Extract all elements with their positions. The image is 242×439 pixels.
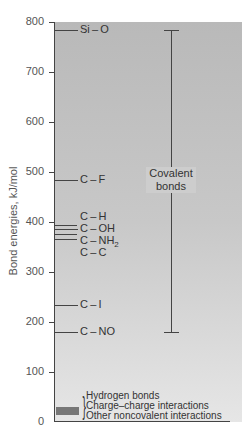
bond-label-si-o: Si – O xyxy=(80,23,109,35)
bond-line-c-i xyxy=(55,305,78,306)
bond-label-c-h: C – H xyxy=(80,210,106,222)
tick-800 xyxy=(49,22,54,23)
tick-label-800: 800 xyxy=(0,15,44,27)
covalent-bonds-label: Covalent bonds xyxy=(146,167,196,193)
tick-label-600: 600 xyxy=(0,115,44,127)
bond-label-c-i: C – I xyxy=(80,298,102,310)
bond-line-c-no xyxy=(55,332,78,333)
bond-line-c-nh2 xyxy=(55,234,77,235)
noncovalent-bar xyxy=(56,407,79,415)
bond-line-si-o xyxy=(55,30,78,31)
bond-line-c-f xyxy=(55,180,78,181)
tick-500 xyxy=(49,172,54,173)
covalent-range-cap-top xyxy=(164,30,179,31)
bond-line-c-h xyxy=(55,225,77,226)
y-axis xyxy=(54,22,55,422)
tick-label-400: 400 xyxy=(0,215,44,227)
tick-label-100: 100 xyxy=(0,365,44,377)
tick-700 xyxy=(49,72,54,73)
bond-line-c-oh xyxy=(55,229,78,230)
tick-label-200: 200 xyxy=(0,315,44,327)
bond-label-c-no: C – NO xyxy=(80,325,115,337)
tick-300 xyxy=(49,272,54,273)
other-noncovalent-label: Other noncovalent interactions xyxy=(86,411,222,421)
bond-label-c-f: C – F xyxy=(80,173,105,185)
tick-200 xyxy=(49,322,54,323)
bond-line-c-c xyxy=(55,239,77,240)
tick-label-500: 500 xyxy=(0,165,44,177)
covalent-range-cap-bottom xyxy=(164,332,179,333)
tick-100 xyxy=(49,372,54,373)
bond-label-c-oh: C – OH xyxy=(80,222,115,234)
tick-label-700: 700 xyxy=(0,65,44,77)
tick-label-0: 0 xyxy=(0,415,44,427)
tick-600 xyxy=(49,122,54,123)
tick-400 xyxy=(49,222,54,223)
x-axis xyxy=(54,421,230,422)
bond-label-c-c: C – C xyxy=(80,246,106,258)
tick-label-300: 300 xyxy=(0,265,44,277)
